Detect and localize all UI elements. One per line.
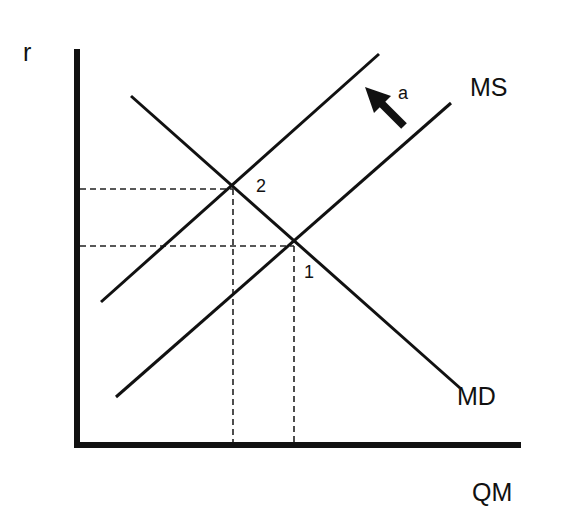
point-1-label: 1 — [304, 263, 314, 281]
ms-shifted-curve — [101, 54, 379, 302]
md-label: MD — [457, 384, 496, 409]
shift-label: a — [398, 84, 408, 102]
x-axis-label: QM — [472, 480, 512, 505]
ms-curve — [116, 103, 451, 397]
ms-label: MS — [470, 75, 508, 100]
point-2-label: 2 — [256, 177, 266, 195]
y-axis-label: r — [23, 40, 31, 65]
